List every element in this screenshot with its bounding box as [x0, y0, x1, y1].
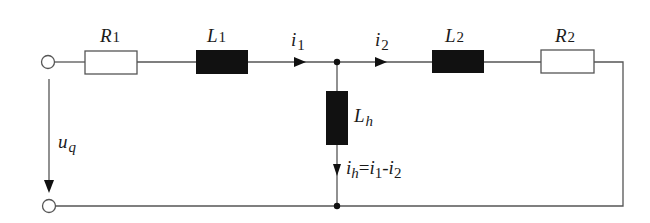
label-r2: R2: [554, 25, 575, 46]
inductor-lh-icon: [326, 91, 348, 145]
terminal-bottom-icon: [43, 200, 56, 213]
inductor-l1-icon: [196, 50, 248, 74]
resistor-r1-icon: [85, 51, 137, 74]
resistor-r2-icon: [541, 50, 594, 73]
current-arrow-i1-icon: [294, 57, 306, 67]
junction-bottom-dot: [334, 203, 340, 209]
junction-top-dot: [334, 59, 340, 65]
label-i1: i1: [291, 29, 305, 53]
circuit-diagram: R1 L1 i1 i2 L2 R2 Lh ih=i1-i2 uq: [0, 0, 650, 223]
voltage-arrow-uq-icon: [44, 180, 54, 193]
label-i2: i2: [375, 29, 389, 53]
current-arrow-ih-icon: [333, 164, 341, 176]
terminal-top-icon: [42, 56, 55, 69]
inductor-l2-icon: [432, 50, 484, 73]
label-l2: L2: [444, 25, 464, 46]
current-arrow-i2-icon: [375, 57, 387, 67]
label-lh: Lh: [353, 105, 373, 129]
label-r1: R1: [99, 25, 120, 46]
label-uq: uq: [58, 131, 77, 155]
label-ih: ih=i1-i2: [346, 157, 401, 181]
label-l1: L1: [206, 25, 226, 46]
